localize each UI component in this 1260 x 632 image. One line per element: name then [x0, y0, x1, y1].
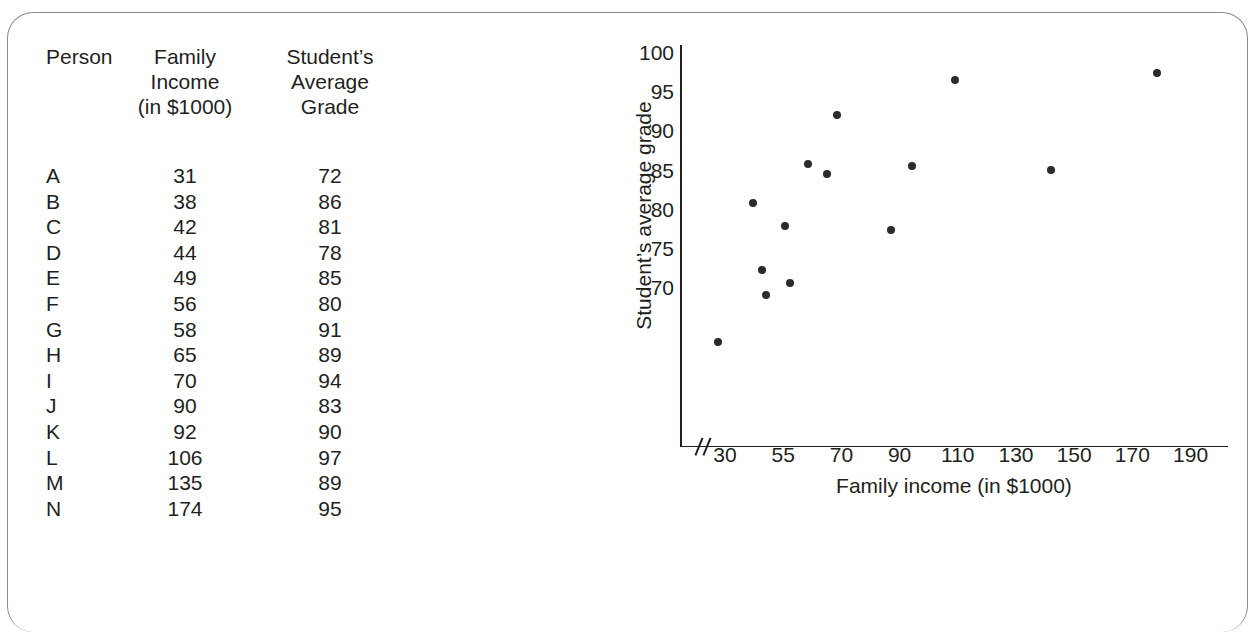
- table-row: L10697: [0, 445, 560, 471]
- data-table: Person FamilyIncome(in $1000) Student’sA…: [0, 0, 560, 608]
- cell-average-grade: 89: [265, 342, 395, 368]
- cell-family-income: 44: [120, 240, 250, 266]
- cell-person: K: [46, 419, 86, 445]
- table-row: M13589: [0, 470, 560, 496]
- scatter-point: [823, 170, 832, 179]
- cell-person: M: [46, 470, 86, 496]
- scatter-chart: Student’s average grade Family income (i…: [560, 0, 1260, 608]
- table-row: C4281: [0, 214, 560, 240]
- cell-person: L: [46, 445, 86, 471]
- cell-average-grade: 83: [265, 393, 395, 419]
- scatter-point: [758, 266, 767, 275]
- table-row: H6589: [0, 342, 560, 368]
- scatter-point: [1047, 166, 1056, 175]
- cell-average-grade: 95: [265, 496, 395, 522]
- scatter-point: [749, 199, 758, 208]
- cell-person: E: [46, 265, 86, 291]
- cell-family-income: 106: [120, 445, 250, 471]
- cell-family-income: 135: [120, 470, 250, 496]
- cell-family-income: 56: [120, 291, 250, 317]
- scatter-point: [908, 162, 917, 171]
- cell-average-grade: 80: [265, 291, 395, 317]
- cell-average-grade: 85: [265, 265, 395, 291]
- table-row: I7094: [0, 368, 560, 394]
- cell-person: I: [46, 368, 86, 394]
- table-row: D4478: [0, 240, 560, 266]
- table-row: J9083: [0, 393, 560, 419]
- cell-person: D: [46, 240, 86, 266]
- cell-average-grade: 90: [265, 419, 395, 445]
- cell-family-income: 65: [120, 342, 250, 368]
- scatter-point: [1153, 69, 1162, 78]
- cell-person: A: [46, 163, 86, 189]
- table-row: B3886: [0, 189, 560, 215]
- cell-person: H: [46, 342, 86, 368]
- cell-person: B: [46, 189, 86, 215]
- scatter-point: [887, 226, 896, 235]
- cell-person: J: [46, 393, 86, 419]
- cell-average-grade: 72: [265, 163, 395, 189]
- scatter-point: [951, 76, 960, 85]
- cell-family-income: 70: [120, 368, 250, 394]
- table-header-family-income: FamilyIncome(in $1000): [120, 44, 250, 119]
- cell-average-grade: 97: [265, 445, 395, 471]
- scatter-point: [781, 222, 790, 231]
- cell-average-grade: 89: [265, 470, 395, 496]
- cell-average-grade: 94: [265, 368, 395, 394]
- cell-person: F: [46, 291, 86, 317]
- cell-person: G: [46, 317, 86, 343]
- scatter-point: [762, 291, 771, 300]
- scatter-point: [786, 279, 795, 288]
- table-row: A3172: [0, 163, 560, 189]
- table-row: F5680: [0, 291, 560, 317]
- cell-average-grade: 86: [265, 189, 395, 215]
- table-row: K9290: [0, 419, 560, 445]
- table-row: E4985: [0, 265, 560, 291]
- cell-family-income: 174: [120, 496, 250, 522]
- table-header-student-average-grade: Student’sAverageGrade: [265, 44, 395, 119]
- scatter-point: [804, 160, 813, 169]
- cell-family-income: 42: [120, 214, 250, 240]
- table-row: G5891: [0, 317, 560, 343]
- cell-average-grade: 78: [265, 240, 395, 266]
- cell-family-income: 58: [120, 317, 250, 343]
- plot-area: [560, 0, 1260, 608]
- cell-person: C: [46, 214, 86, 240]
- cell-person: N: [46, 496, 86, 522]
- scatter-point: [714, 338, 723, 347]
- cell-family-income: 90: [120, 393, 250, 419]
- cell-family-income: 92: [120, 419, 250, 445]
- cell-average-grade: 81: [265, 214, 395, 240]
- cell-average-grade: 91: [265, 317, 395, 343]
- cell-family-income: 38: [120, 189, 250, 215]
- cell-family-income: 31: [120, 163, 250, 189]
- table-header-person: Person: [46, 44, 113, 69]
- table-row: N17495: [0, 496, 560, 522]
- scatter-point: [833, 111, 842, 120]
- cell-family-income: 49: [120, 265, 250, 291]
